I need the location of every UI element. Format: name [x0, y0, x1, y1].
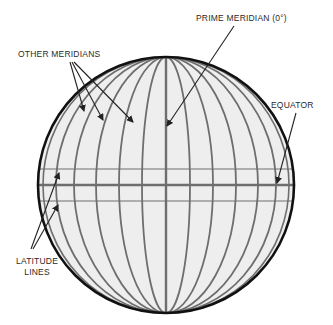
prime-meridian-label: PRIME MERIDIAN (0°): [196, 13, 287, 23]
equator-label: EQUATOR: [271, 100, 314, 110]
latitude-lines-label: LATITUDE LINES: [12, 256, 62, 277]
latitude-label-line2: LINES: [12, 267, 62, 277]
globe-diagram: PRIME MERIDIAN (0°) OTHER MERIDIANS EQUA…: [0, 0, 333, 325]
latitude-label-line1: LATITUDE: [12, 256, 62, 266]
other-meridians-label: OTHER MERIDIANS: [18, 49, 100, 59]
